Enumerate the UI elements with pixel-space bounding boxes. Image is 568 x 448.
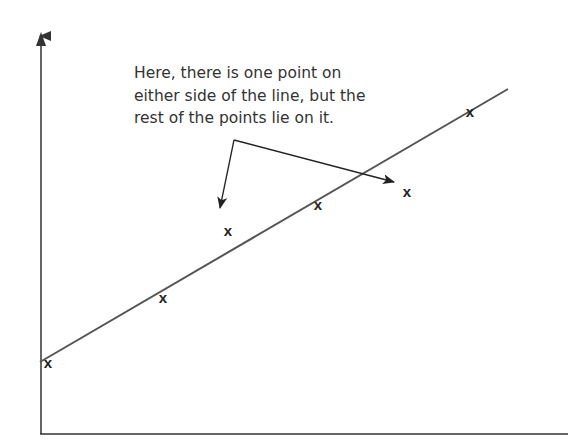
- callout-arrow-right: [234, 140, 394, 182]
- annotation-line-3: rest of the points lie on it.: [134, 107, 365, 130]
- data-point-x-icon: x: [159, 290, 167, 305]
- annotation-line-1: Here, there is one point on: [134, 62, 365, 85]
- y-axis-arrowhead-icon: [36, 32, 46, 46]
- line-of-best-fit: [40, 89, 508, 362]
- data-point-x-icon: x: [466, 104, 474, 119]
- annotation-line-2: either side of the line, but the: [134, 85, 365, 108]
- data-point-x-icon: x: [403, 184, 411, 199]
- callout-arrow-left: [220, 140, 234, 208]
- data-point-x-icon: x: [44, 355, 52, 370]
- data-point-x-icon: x: [224, 223, 232, 238]
- annotation-text: Here, there is one point on either side …: [134, 62, 365, 130]
- data-point-x-icon: x: [314, 197, 322, 212]
